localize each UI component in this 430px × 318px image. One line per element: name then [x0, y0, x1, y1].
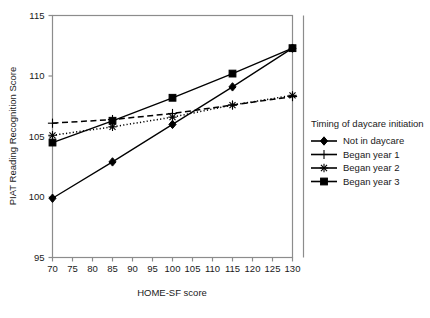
diamond-marker: [169, 120, 176, 128]
x-tick-label: 95: [147, 263, 158, 274]
x-tick-label: 105: [185, 263, 201, 274]
x-tick-label: 130: [285, 263, 301, 274]
y-tick-label: 100: [29, 191, 45, 202]
legend-label: Not in daycare: [343, 135, 404, 146]
asterisk-marker: [228, 101, 236, 109]
y-tick-label: 115: [29, 10, 44, 21]
square-marker: [289, 45, 296, 52]
plus-marker: [319, 150, 328, 159]
square-marker: [321, 178, 328, 185]
chart-figure: 95100105110115 7075808590951001051101151…: [0, 0, 430, 318]
legend-item-4[interactable]: Began year 3: [311, 176, 400, 187]
axis-tick-marks: [49, 16, 293, 262]
legend-entries: Not in daycareBegan year 1Began year 2Be…: [311, 135, 404, 187]
series-1: [49, 44, 296, 202]
asterisk-marker: [320, 164, 328, 172]
legend-title: Timing of daycare initiation: [311, 118, 424, 129]
x-tick-label: 115: [225, 263, 240, 274]
legend-item-2[interactable]: Began year 1: [311, 149, 400, 160]
x-tick-label: 125: [265, 263, 281, 274]
plus-marker: [48, 119, 57, 128]
chart-legend: Timing of daycare initiation Not in dayc…: [304, 16, 424, 258]
square-marker: [109, 117, 116, 124]
diamond-marker: [109, 158, 116, 166]
y-axis-tick-labels: 95100105110115: [29, 10, 45, 263]
x-axis-title: HOME-SF score: [137, 287, 207, 298]
x-tick-label: 75: [67, 263, 78, 274]
legend-label: Began year 1: [343, 149, 400, 160]
diamond-marker: [320, 137, 327, 145]
x-tick-label: 110: [205, 263, 220, 274]
series-4: [49, 45, 296, 146]
y-axis-title: PIAT Reading Recognition Score: [7, 67, 18, 206]
x-tick-label: 80: [87, 263, 98, 274]
diamond-marker: [229, 83, 236, 91]
x-tick-label: 100: [165, 263, 181, 274]
square-marker: [229, 70, 236, 77]
x-tick-label: 120: [245, 263, 261, 274]
square-marker: [49, 139, 56, 146]
asterisk-marker: [288, 91, 296, 99]
y-tick-label: 110: [29, 70, 44, 81]
asterisk-marker: [168, 113, 176, 121]
x-tick-label: 90: [127, 263, 138, 274]
x-tick-label: 85: [107, 263, 118, 274]
chart-canvas: 95100105110115 7075808590951001051101151…: [0, 0, 430, 318]
plot-frame: [53, 16, 293, 258]
asterisk-marker: [48, 131, 56, 139]
diamond-marker: [49, 194, 56, 202]
legend-item-1[interactable]: Not in daycare: [311, 135, 404, 146]
x-axis-tick-labels: 707580859095100105110115120125130: [47, 263, 300, 274]
x-tick-label: 70: [47, 263, 58, 274]
y-tick-label: 95: [34, 252, 45, 263]
data-series-group: [48, 44, 297, 202]
y-tick-label: 105: [29, 131, 45, 142]
legend-label: Began year 3: [343, 176, 400, 187]
square-marker: [169, 94, 176, 101]
legend-item-3[interactable]: Began year 2: [311, 162, 400, 173]
legend-label: Began year 2: [343, 162, 400, 173]
